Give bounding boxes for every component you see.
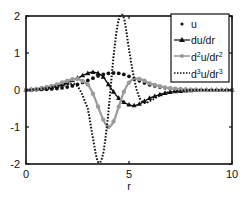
series-d2udr2-point [153, 83, 157, 87]
series-d2udr2-point [137, 77, 141, 81]
series-d2udr2-point [65, 79, 69, 83]
series-d2udr2-point [122, 90, 126, 94]
series-d2udr2-point [96, 104, 100, 108]
legend-marker-u [180, 22, 183, 25]
x-tick-label: 5 [126, 168, 132, 180]
y-tick-label: -1 [10, 121, 20, 133]
series-d2udr2-point [91, 92, 95, 96]
x-tick-label: 0 [23, 168, 29, 180]
chart: 0510-2-1012 r u du/dr d2u/dr2 d3u/dr3 [0, 0, 248, 205]
legend: u du/dr d2u/dr2 d3u/dr3 [171, 14, 229, 82]
series-u-point [107, 71, 111, 75]
series-d2udr2-point [142, 79, 146, 83]
y-tick-label: 1 [14, 47, 20, 59]
series-d2udr2-point [80, 79, 84, 83]
series-u-point [65, 85, 69, 89]
series-d2udr2-point [86, 82, 90, 86]
y-tick-label: 2 [14, 10, 20, 22]
series-d2udr2-point [147, 81, 151, 85]
series-d2udr2-point [163, 85, 167, 89]
series-u-point [60, 86, 64, 90]
series-d2udr2-point [158, 84, 162, 88]
series-d2udr2-point [127, 80, 131, 84]
series-d2udr2-point [111, 119, 115, 123]
x-tick-label: 10 [226, 168, 238, 180]
series-u-point [91, 76, 95, 80]
series-u-point [122, 73, 126, 77]
series-d2udr2-point [75, 77, 79, 81]
legend-label-dudr: du/dr [191, 34, 215, 46]
y-tick-label: 0 [14, 84, 20, 96]
series-u-point [86, 78, 90, 82]
series-u-point [127, 74, 131, 78]
y-tick-label: -2 [10, 158, 20, 170]
legend-label-d2udr2: d2u/dr2 [191, 51, 223, 63]
series-d2udr2-point [117, 104, 121, 108]
series-d2udr2-point [70, 77, 74, 81]
series-u-point [117, 71, 121, 75]
legend-marker-d2udr2 [180, 54, 184, 58]
x-axis-label: r [127, 180, 131, 192]
series-d2udr2-point [168, 86, 172, 90]
series-d2udr2-point [101, 117, 105, 121]
legend-label-u: u [191, 18, 197, 30]
legend-label-d3udr3: d3u/dr3 [191, 68, 223, 80]
